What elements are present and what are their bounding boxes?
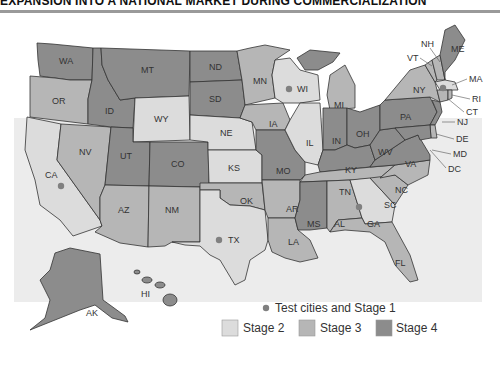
svg-text:AL: AL <box>334 219 345 229</box>
svg-text:VT: VT <box>407 53 419 63</box>
svg-text:WY: WY <box>154 114 169 124</box>
svg-text:NY: NY <box>413 85 426 95</box>
svg-text:CT: CT <box>466 107 478 117</box>
svg-text:HI: HI <box>141 289 150 299</box>
test-city-wi <box>286 86 292 92</box>
test-city-ga <box>356 204 362 210</box>
legend-stage3: Stage 3 <box>320 321 362 335</box>
svg-text:AZ: AZ <box>118 205 130 215</box>
state-az[interactable] <box>95 185 149 247</box>
svg-text:IA: IA <box>269 119 278 129</box>
svg-text:LA: LA <box>288 237 299 247</box>
svg-text:OK: OK <box>240 196 253 206</box>
test-city-tx <box>216 237 222 243</box>
svg-text:DC: DC <box>448 164 461 174</box>
svg-text:ND: ND <box>209 62 222 72</box>
svg-text:ID: ID <box>105 106 115 116</box>
svg-text:CA: CA <box>45 170 58 180</box>
svg-text:SD: SD <box>209 94 222 104</box>
svg-text:NV: NV <box>79 147 92 157</box>
legend-test-cities: Test cities and Stage 1 <box>275 301 396 315</box>
svg-text:CO: CO <box>171 159 185 169</box>
legend-stage2-swatch <box>222 320 238 336</box>
svg-text:WV: WV <box>378 147 393 157</box>
svg-text:MN: MN <box>253 76 267 86</box>
svg-text:RI: RI <box>472 94 481 104</box>
svg-text:NM: NM <box>165 205 179 215</box>
svg-text:MO: MO <box>276 166 291 176</box>
legend-stage4-swatch <box>376 320 392 336</box>
svg-text:MD: MD <box>453 149 467 159</box>
svg-text:UT: UT <box>120 151 132 161</box>
state-nm[interactable] <box>148 186 200 247</box>
svg-text:IL: IL <box>306 138 314 148</box>
state-mi-up[interactable] <box>297 50 340 70</box>
us-map: WA OR CA NV ID MT WY UT CO AZ NM ND SD N… <box>0 14 504 365</box>
svg-text:WA: WA <box>59 56 73 66</box>
svg-text:SC: SC <box>384 200 397 210</box>
state-ri[interactable] <box>448 90 452 100</box>
legend-test-city-icon <box>263 305 269 311</box>
us-map-svg: WA OR CA NV ID MT WY UT CO AZ NM ND SD N… <box>0 14 504 365</box>
svg-text:AR: AR <box>286 204 299 214</box>
svg-text:OH: OH <box>356 129 370 139</box>
svg-text:AK: AK <box>86 308 98 318</box>
svg-text:NE: NE <box>220 128 233 138</box>
legend-stage3-swatch <box>299 320 315 336</box>
svg-text:OR: OR <box>52 96 66 106</box>
svg-text:MA: MA <box>469 74 483 84</box>
svg-text:TN: TN <box>339 187 351 197</box>
svg-text:NH: NH <box>421 39 434 49</box>
svg-text:KY: KY <box>345 165 357 175</box>
svg-text:WI: WI <box>297 84 308 94</box>
svg-text:MI: MI <box>334 100 344 110</box>
state-ak[interactable] <box>30 248 128 330</box>
svg-text:MS: MS <box>307 219 321 229</box>
legend: Test cities and Stage 1 Stage 2 Stage 3 … <box>222 301 438 336</box>
svg-text:KS: KS <box>228 163 240 173</box>
svg-text:PA: PA <box>400 112 411 122</box>
svg-text:NJ: NJ <box>457 117 468 127</box>
svg-text:TX: TX <box>228 235 240 245</box>
legend-stage2: Stage 2 <box>243 321 285 335</box>
title-divider <box>0 10 500 13</box>
svg-text:FL: FL <box>395 258 406 268</box>
svg-text:IN: IN <box>332 136 341 146</box>
svg-text:VA: VA <box>405 159 416 169</box>
test-city-ma <box>440 85 446 91</box>
svg-text:ME: ME <box>451 44 465 54</box>
map-title: EXPANSION INTO A NATIONAL MARKET DURING … <box>0 0 504 7</box>
state-hi[interactable] <box>134 270 177 306</box>
test-city-ca <box>58 183 64 189</box>
state-ma[interactable] <box>435 80 458 90</box>
svg-text:MT: MT <box>141 65 154 75</box>
svg-text:DE: DE <box>456 134 469 144</box>
svg-text:NC: NC <box>395 185 408 195</box>
svg-text:GA: GA <box>367 219 380 229</box>
legend-stage4: Stage 4 <box>396 321 438 335</box>
